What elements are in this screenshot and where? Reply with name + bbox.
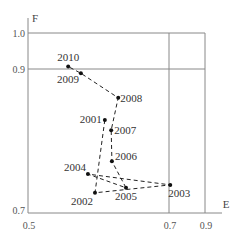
- data-points: 2001200220032004200520062007200820092010: [57, 51, 191, 206]
- data-point-2010: [66, 64, 70, 68]
- data-point-2009: [79, 71, 83, 75]
- y-tick-0.9: 0.9: [13, 64, 26, 75]
- y-tick-labels: 1.0 0.9 0.7: [13, 28, 26, 216]
- y-tick-1.0: 1.0: [13, 28, 26, 39]
- scatter-chart: 1.0 0.9 0.7 0.5 0.7 0.9 F E 200120022003…: [0, 0, 243, 237]
- point-label-2009: 2009: [57, 73, 80, 85]
- point-label-2007: 2007: [114, 124, 137, 136]
- x-tick-0.7: 0.7: [164, 220, 177, 231]
- x-tick-labels: 0.5 0.7 0.9: [23, 220, 213, 231]
- point-label-2006: 2006: [115, 150, 137, 162]
- point-label-2004: 2004: [64, 161, 87, 173]
- data-point-2002: [93, 191, 97, 195]
- data-point-2006: [110, 159, 114, 163]
- axes: [28, 18, 222, 213]
- data-point-2001: [103, 118, 107, 122]
- x-tick-0.5: 0.5: [23, 220, 36, 231]
- y-tick-0.7: 0.7: [13, 205, 26, 216]
- point-label-2008: 2008: [120, 92, 142, 104]
- point-label-2001: 2001: [80, 113, 102, 125]
- point-label-2003: 2003: [168, 187, 191, 199]
- x-axis-title: E: [223, 198, 230, 210]
- point-label-2002: 2002: [71, 195, 93, 207]
- point-label-2010: 2010: [57, 51, 80, 63]
- data-point-2007: [109, 128, 113, 132]
- point-label-2005: 2005: [115, 190, 138, 202]
- data-point-2004: [86, 172, 90, 176]
- y-axis-title: F: [32, 12, 38, 24]
- x-tick-0.9: 0.9: [200, 220, 213, 231]
